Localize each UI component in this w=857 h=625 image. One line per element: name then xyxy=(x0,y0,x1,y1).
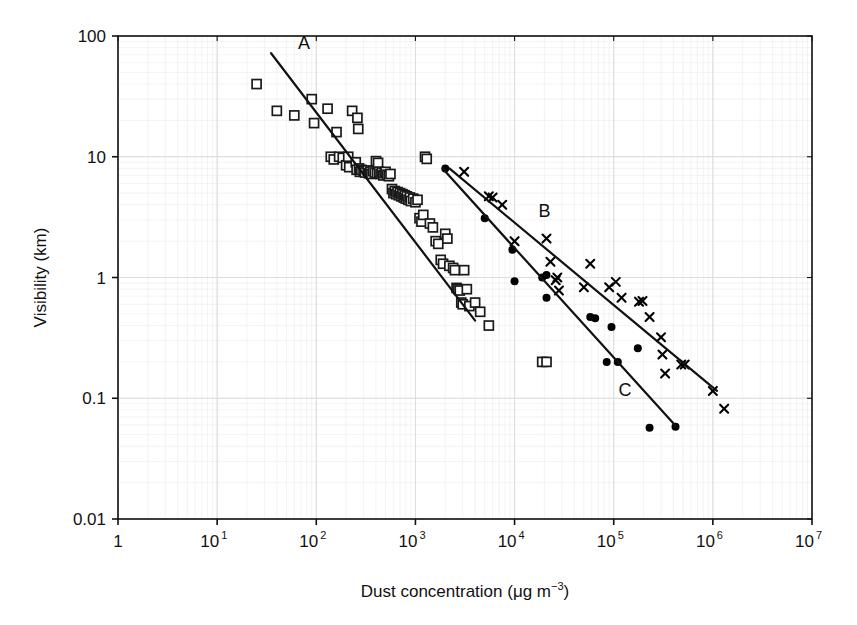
data-point-circle xyxy=(543,271,551,279)
data-point-circle xyxy=(543,294,551,302)
data-point-circle xyxy=(646,424,654,432)
y-tick-label: 100 xyxy=(78,27,106,46)
svg-text:10: 10 xyxy=(696,532,715,551)
data-point-square xyxy=(252,80,261,89)
data-point-circle xyxy=(591,314,599,322)
svg-text:3: 3 xyxy=(419,529,425,541)
data-point-circle xyxy=(603,358,611,366)
y-tick-label: 1 xyxy=(97,269,106,288)
svg-text:4: 4 xyxy=(519,529,525,541)
svg-text:10: 10 xyxy=(498,532,517,551)
data-point-square xyxy=(354,124,363,133)
data-point-square xyxy=(471,298,480,307)
data-point-square xyxy=(353,113,362,122)
data-point-square xyxy=(460,266,469,275)
svg-text:2: 2 xyxy=(320,529,326,541)
data-point-square xyxy=(419,210,428,219)
data-point-circle xyxy=(608,323,616,331)
data-point-square xyxy=(462,285,471,294)
line-label-B: B xyxy=(538,201,550,221)
data-point-square xyxy=(428,223,437,232)
data-point-circle xyxy=(511,277,519,285)
svg-text:5: 5 xyxy=(618,529,624,541)
svg-text:10: 10 xyxy=(399,532,418,551)
data-point-square xyxy=(450,266,459,275)
data-point-square xyxy=(542,357,551,366)
data-point-square xyxy=(443,234,452,243)
svg-text:6: 6 xyxy=(717,529,723,541)
data-point-square xyxy=(310,119,319,128)
svg-text:7: 7 xyxy=(816,529,822,541)
scatter-plot: 1101102103104105106107 1001010.10.01 ABC… xyxy=(0,0,857,625)
x-axis-title: Dust concentration (μg m−3) xyxy=(361,580,569,601)
data-point-circle xyxy=(634,344,642,352)
y-axis-title: Visibility (km) xyxy=(31,228,50,328)
svg-text:10: 10 xyxy=(200,532,219,551)
data-point-square xyxy=(434,239,443,248)
svg-text:10: 10 xyxy=(597,532,616,551)
chart-figure: 1101102103104105106107 1001010.10.01 ABC… xyxy=(0,0,857,625)
line-label-A: A xyxy=(298,33,310,53)
data-point-square xyxy=(290,111,299,120)
y-tick-label: 0.01 xyxy=(73,510,106,529)
data-point-square xyxy=(413,195,422,204)
data-point-square xyxy=(476,307,485,316)
svg-text:10: 10 xyxy=(299,532,318,551)
svg-text:1: 1 xyxy=(221,529,227,541)
data-point-square xyxy=(374,158,383,167)
data-point-square xyxy=(386,169,395,178)
x-tick-label: 1 xyxy=(113,532,122,551)
y-tick-label: 10 xyxy=(87,148,106,167)
svg-text:10: 10 xyxy=(795,532,814,551)
y-tick-label: 0.1 xyxy=(82,389,106,408)
svg-text:1: 1 xyxy=(113,532,122,551)
data-point-square xyxy=(323,104,332,113)
figure-background xyxy=(0,0,857,625)
line-label-C: C xyxy=(619,380,632,400)
data-point-square xyxy=(422,154,431,163)
data-point-square xyxy=(272,106,281,115)
data-point-square xyxy=(484,321,493,330)
